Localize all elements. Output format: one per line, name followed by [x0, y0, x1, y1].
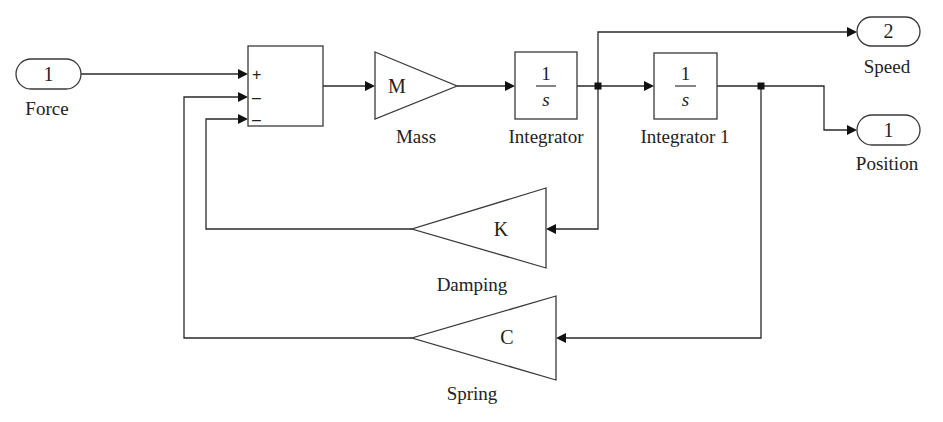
- damping-gain-symbol: K: [494, 218, 509, 240]
- block-diagram-canvas: 1 Force + – – M Mass 1 s Integrator 1 s …: [0, 0, 943, 422]
- branch-point-speed: [595, 83, 602, 90]
- integrator1-block[interactable]: 1 s Integrator 1: [640, 53, 729, 147]
- inport-force[interactable]: 1 Force: [16, 59, 81, 119]
- damping-gain-label: Damping: [437, 274, 508, 295]
- outport-position[interactable]: 1 Position: [856, 115, 920, 174]
- arrowhead-icon: [847, 27, 857, 37]
- arrowhead-icon: [556, 333, 566, 343]
- integrator1-denominator: s: [682, 89, 689, 110]
- wire-to-speed[interactable]: [598, 32, 849, 86]
- sum-sign-plus: +: [252, 66, 261, 83]
- outport-speed[interactable]: 2 Speed: [857, 17, 920, 77]
- arrowhead-icon: [365, 81, 375, 91]
- outport-speed-number: 2: [884, 20, 894, 42]
- mass-gain-block[interactable]: M Mass: [375, 52, 457, 147]
- damping-gain-shape[interactable]: [412, 188, 546, 268]
- sum-block[interactable]: + – –: [248, 46, 323, 128]
- sum-sign-minus-2: –: [252, 111, 261, 128]
- wire-to-position[interactable]: [717, 86, 849, 130]
- arrowhead-icon: [644, 81, 654, 91]
- wire-to-spring[interactable]: [565, 86, 761, 338]
- spring-gain-label: Spring: [447, 383, 498, 404]
- integrator-denominator: s: [542, 89, 549, 110]
- branch-point-position: [758, 83, 765, 90]
- outport-speed-label: Speed: [864, 56, 911, 77]
- wire-damping-to-sum[interactable]: [206, 119, 412, 229]
- arrowhead-icon: [238, 114, 248, 124]
- spring-gain-shape[interactable]: [412, 296, 556, 380]
- spring-gain-block[interactable]: C Spring: [412, 296, 556, 404]
- arrowhead-icon: [238, 92, 248, 102]
- integrator1-label: Integrator 1: [640, 126, 729, 147]
- inport-force-label: Force: [25, 98, 68, 119]
- mass-gain-label: Mass: [396, 126, 436, 147]
- arrowhead-icon: [238, 69, 248, 79]
- integrator-block[interactable]: 1 s Integrator: [509, 52, 585, 147]
- spring-gain-symbol: C: [500, 326, 513, 348]
- mass-gain-symbol: M: [388, 75, 406, 97]
- wire-spring-to-sum[interactable]: [184, 97, 412, 338]
- arrowhead-icon: [847, 125, 857, 135]
- sum-sign-minus-1: –: [252, 89, 261, 106]
- damping-gain-block[interactable]: K Damping: [412, 188, 546, 295]
- outport-position-label: Position: [856, 153, 919, 174]
- outport-position-number: 1: [884, 119, 894, 141]
- integrator-label: Integrator: [509, 126, 585, 147]
- integrator1-numerator: 1: [681, 63, 691, 84]
- inport-force-number: 1: [44, 63, 54, 85]
- arrowhead-icon: [505, 81, 515, 91]
- integrator-numerator: 1: [541, 63, 551, 84]
- arrowhead-icon: [546, 224, 556, 234]
